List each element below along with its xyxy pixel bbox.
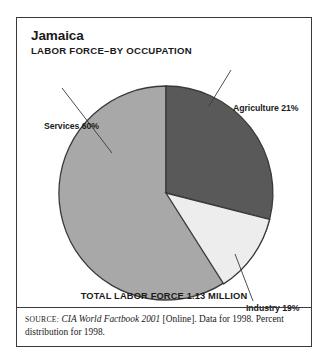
pie-chart: Agriculture 21% Services 60% Industry 19… [17,58,310,308]
figure-frame: Jamaica LABOR FORCE–BY OCCUPATION Agricu… [16,17,312,347]
slice-label-services: Services 60% [44,121,99,131]
pie-chart-svg [17,58,310,308]
slice-label-agriculture: Agriculture 21% [233,103,298,113]
source-publication: CIA World Factbook 2001 [62,314,161,324]
page-title: Jamaica [31,28,84,43]
figure-page: Jamaica LABOR FORCE–BY OCCUPATION Agricu… [0,0,330,359]
total-labor-force-caption: TOTAL LABOR FORCE 1.13 MILLION [17,291,311,301]
source-label: SOURCE: [25,315,59,324]
source-divider [17,307,311,308]
figure-subtitle: LABOR FORCE–BY OCCUPATION [31,45,192,56]
source-note: SOURCE: CIA World Factbook 2001 [Online]… [25,313,303,339]
